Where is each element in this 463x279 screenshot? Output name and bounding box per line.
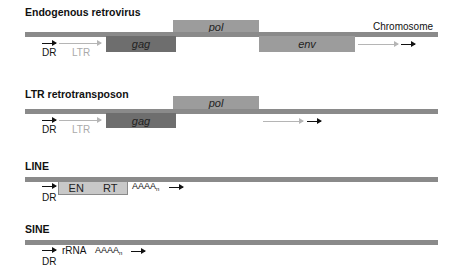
ltr-ltr-label: LTR <box>72 124 90 135</box>
line-dr-label: DR <box>42 192 56 203</box>
erv-chromosome-bar <box>25 32 438 37</box>
ltr-dr-arrow-left <box>42 120 56 121</box>
erv-ltr-label: LTR <box>72 47 90 58</box>
ltr-title: LTR retrotransposon <box>25 88 129 100</box>
chromosome-label: Chromosome <box>373 21 433 32</box>
line-polya-label: AAAAn <box>132 181 159 192</box>
ltr-ltr-arrow-right <box>263 121 303 122</box>
ltr-pol-domain: pol <box>173 96 259 110</box>
erv-dr-arrow-left <box>42 43 56 44</box>
sine-rrna-label: rRNA <box>62 245 86 256</box>
erv-title: Endogenous retrovirus <box>25 6 141 18</box>
erv-dr-arrow-right <box>401 44 415 45</box>
sine-dr-label: DR <box>42 256 56 267</box>
line-dr-arrow-right <box>169 187 183 188</box>
erv-ltr-arrow-right <box>358 44 398 45</box>
erv-env-domain: env <box>259 36 355 52</box>
ltr-dr-label: DR <box>42 124 56 135</box>
erv-gag-domain: gag <box>106 36 176 52</box>
line-title: LINE <box>25 160 49 172</box>
ltr-ltr-arrow-left <box>59 120 101 121</box>
sine-dr-arrow-left <box>42 250 56 251</box>
line-rt-domain: RT <box>103 182 117 194</box>
sine-polya-label: AAAAn <box>95 245 122 256</box>
ltr-gag-domain: gag <box>106 113 176 128</box>
line-dr-arrow-left <box>42 186 56 187</box>
ltr-dr-arrow-right <box>307 121 321 122</box>
sine-chromosome-bar <box>25 240 438 245</box>
line-orf-box: EN RT <box>58 181 128 195</box>
ltr-chromosome-bar <box>25 109 438 114</box>
sine-dr-arrow-right <box>131 251 145 252</box>
erv-ltr-arrow-left <box>59 43 101 44</box>
erv-dr-label: DR <box>42 47 56 58</box>
line-en-domain: EN <box>69 182 84 194</box>
sine-title: SINE <box>25 223 50 235</box>
